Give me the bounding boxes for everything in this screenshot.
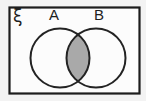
set-b-label: B: [94, 7, 104, 22]
universal-set-label: ξ: [13, 8, 22, 25]
venn-diagram: ξ A B: [0, 0, 146, 101]
set-a-label: A: [49, 7, 59, 22]
